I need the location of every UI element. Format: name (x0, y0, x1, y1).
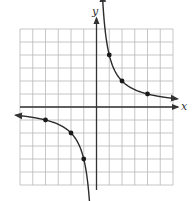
hyperbola-graph: x y (0, 0, 194, 201)
y-axis-label: y (91, 5, 99, 18)
data-point (107, 53, 112, 58)
data-point (145, 92, 150, 97)
data-point (81, 157, 86, 162)
curve-lower-branch (16, 115, 91, 201)
data-point (43, 118, 48, 123)
data-point (69, 131, 74, 136)
curve-upper-branch (102, 0, 177, 99)
data-point (120, 79, 125, 84)
axes (20, 18, 178, 190)
x-axis-label: x (181, 100, 188, 113)
